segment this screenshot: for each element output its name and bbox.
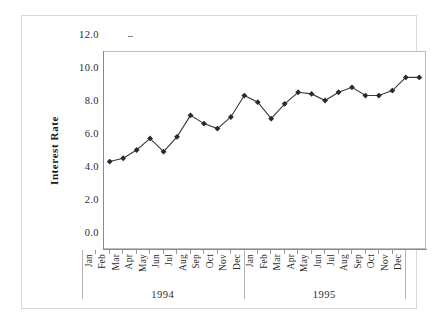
y-axis-line <box>103 51 104 250</box>
x-axis-tick-label: Mar <box>272 254 282 270</box>
y-axis-tick-label: 2.0 <box>57 194 99 205</box>
x-axis-tick-label: Oct <box>366 254 376 268</box>
x-axis-tick-mark <box>284 250 285 254</box>
x-axis-tick-label: Nov <box>218 254 228 271</box>
x-axis-tick-label: Apr <box>124 254 134 269</box>
y-axis-tick-label: 8.0 <box>57 95 99 106</box>
x-axis-tick-label: Feb <box>97 254 107 269</box>
x-axis-tick-label: May <box>138 254 148 272</box>
x-axis-tick-label: Nov <box>380 254 390 271</box>
x-axis-tick-label: Jul <box>326 254 336 266</box>
x-axis-tick-label: Mar <box>111 254 121 270</box>
y-axis-tick-label: 10.0 <box>57 62 99 73</box>
x-axis-tick-label: Dec <box>232 254 242 270</box>
x-axis-tick-mark <box>136 250 137 254</box>
x-axis-tick-label: Aug <box>339 254 349 271</box>
x-axis-tick-label: Jun <box>151 254 161 268</box>
y-axis-tick-group: 12.010.08.06.04.02.00.0 <box>52 16 99 325</box>
x-axis-tick-mark <box>230 250 231 254</box>
y-axis-tick-label: 12.0 <box>57 29 99 40</box>
x-axis-tick-label: May <box>299 254 309 272</box>
y-axis-tick-label: 6.0 <box>57 128 99 139</box>
x-axis-tick-label: Dec <box>393 254 403 270</box>
x-axis-tick-mark <box>351 250 352 254</box>
chart-frame: Interest Rate 12.010.08.06.04.02.00.0 Ja… <box>21 15 417 309</box>
x-axis-tick-label: Jul <box>164 254 174 266</box>
x-axis-tick-label: Jan <box>84 254 94 267</box>
x-axis-tick-label: Jan <box>245 254 255 267</box>
x-axis-tick-label: Sep <box>353 254 363 269</box>
x-axis-tick-mark <box>311 250 312 254</box>
plot-area <box>103 51 426 249</box>
x-axis-tick-mark <box>203 250 204 254</box>
x-axis-tick-label: Feb <box>259 254 269 269</box>
x-axis-tick-label: Apr <box>286 254 296 269</box>
x-axis-tick-mark <box>378 250 379 254</box>
x-axis-group-label: 1995 <box>244 289 406 300</box>
y-axis-tick-mark <box>128 36 133 37</box>
x-axis-tick-label: Oct <box>205 254 215 268</box>
x-axis-tick-mark <box>257 250 258 254</box>
x-axis-group-label: 1994 <box>82 289 244 300</box>
x-axis-tick-label: Jun <box>313 254 323 268</box>
y-axis-tick-label: 4.0 <box>57 161 99 172</box>
x-axis-tick-label: Aug <box>178 254 188 271</box>
x-axis-group-separator <box>405 250 406 299</box>
x-axis-tick-mark <box>109 250 110 254</box>
x-axis-tick-label: Sep <box>191 254 201 269</box>
y-axis-tick-label: 0.0 <box>57 227 99 238</box>
